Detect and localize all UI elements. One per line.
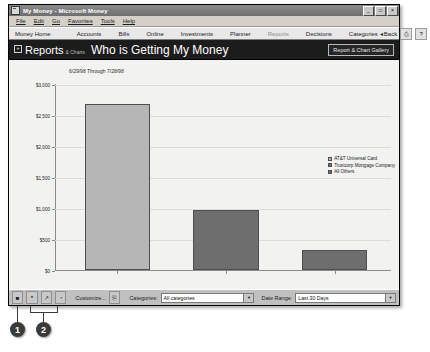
y-axis-tick-label: $0 (45, 269, 50, 274)
page-header-band: + Reports & Charts Who is Getting My Mon… (9, 40, 399, 60)
reports-section-sublabel: & Charts (66, 49, 85, 55)
nav-item-accounts[interactable]: Accounts (75, 31, 104, 37)
y-axis-tick (52, 178, 55, 179)
legend-item: All Others (328, 169, 395, 174)
legend-label: Trustcorp Mortgage Company (334, 163, 395, 168)
menu-item-tools[interactable]: Tools (97, 18, 119, 24)
money-document-icon (11, 6, 20, 15)
legend-label: AT&T Universal Card (334, 156, 377, 161)
menu-item-edit[interactable]: Edit (30, 18, 48, 24)
back-label: Back (384, 31, 397, 37)
menu-item-favorites[interactable]: Favorites (64, 18, 97, 24)
callout-leader-line (57, 306, 58, 313)
gridline (55, 85, 391, 86)
y-axis-tick-label: $3,000 (36, 83, 50, 88)
plot-area: $0$500$1,000$1,500$2,000$2,500$3,000 (55, 84, 391, 271)
y-axis-tick (52, 85, 55, 86)
nav-item-bills[interactable]: Bills (116, 31, 131, 37)
help-icon[interactable]: ? (415, 28, 427, 40)
chart-legend: AT&T Universal Card Trustcorp Mortgage C… (328, 156, 395, 176)
navigation-bar: Money Home Accounts Bills Online Investm… (9, 27, 399, 40)
bar-chart-icon[interactable]: ᵜ (26, 291, 37, 304)
y-axis-tick-label: $2,000 (36, 145, 50, 150)
export-icon[interactable]: ⎘ (109, 291, 120, 304)
title-bar: My Money - Microsoft Money _ □ × (9, 5, 399, 16)
daterange-value: Last 30 Days (296, 294, 385, 302)
report-chart-gallery-button[interactable]: Report & Chart Gallery (328, 44, 394, 56)
back-arrow-icon: ◂ (380, 30, 383, 37)
nav-item-decisions[interactable]: Decisions (304, 31, 334, 37)
daterange-label: Date Range: (261, 295, 292, 301)
x-axis-tick (226, 271, 227, 274)
chevron-down-icon[interactable]: ▼ (385, 294, 395, 302)
y-axis-tick-label: $500 (40, 238, 50, 243)
reports-section-label: Reports (25, 44, 64, 56)
application-window: My Money - Microsoft Money _ □ × File Ed… (8, 4, 400, 306)
caption-button-group: _ □ × (363, 6, 398, 16)
menu-item-file[interactable]: File (12, 18, 30, 24)
maximize-button[interactable]: □ (375, 6, 386, 16)
close-button[interactable]: × (387, 6, 398, 16)
legend-swatch-icon (328, 170, 332, 174)
y-axis-tick (52, 147, 55, 148)
chart-canvas: 6/29/98 Through 7/28/98 $0$500$1,000$1,5… (9, 60, 399, 289)
chevron-down-icon[interactable]: ▼ (243, 294, 253, 302)
nav-item-reports[interactable]: Reports (266, 31, 291, 37)
nav-item-investments[interactable]: Investments (179, 31, 215, 37)
nav-item-categories[interactable]: Categories (347, 31, 380, 37)
bar[interactable] (85, 104, 150, 270)
reports-section-link[interactable]: + Reports & Charts (9, 44, 87, 56)
chart-options-toolbar: ■ ᵜ ↗ ◔ Customize... ⎘ Categories: All c… (9, 289, 399, 305)
y-axis-tick (52, 240, 55, 241)
categories-dropdown[interactable]: All categories ▼ (161, 293, 255, 303)
callout-leader-line (30, 312, 58, 313)
x-axis-tick (335, 271, 336, 274)
bar[interactable] (193, 210, 258, 270)
legend-swatch-icon (328, 157, 332, 161)
minimize-button[interactable]: _ (363, 6, 374, 16)
menu-go-label: Go (52, 18, 60, 24)
menu-tools-label: Tools (101, 18, 115, 24)
chart-subtitle: 6/29/98 Through 7/28/98 (69, 68, 124, 74)
y-axis-tick-label: $1,000 (36, 207, 50, 212)
menu-file-label: File (16, 18, 26, 24)
expand-plus-icon[interactable]: + (14, 45, 22, 53)
y-axis-tick (52, 209, 55, 210)
bar[interactable] (302, 250, 367, 270)
nav-item-money-home[interactable]: Money Home (13, 31, 53, 37)
nav-item-online[interactable]: Online (144, 31, 165, 37)
page-title: Who is Getting My Money (91, 43, 228, 57)
categories-label: Categories: (129, 295, 157, 301)
report-view-icon[interactable]: ■ (12, 291, 23, 304)
legend-swatch-icon (328, 163, 332, 167)
callout-marker-2: 2 (36, 322, 51, 337)
x-axis (55, 270, 391, 271)
pie-chart-icon[interactable]: ◔ (55, 291, 66, 304)
daterange-dropdown[interactable]: Last 30 Days ▼ (295, 293, 396, 303)
x-axis-tick (117, 271, 118, 274)
legend-item: Trustcorp Mortgage Company (328, 163, 395, 168)
legend-item: AT&T Universal Card (328, 156, 395, 161)
y-axis-tick (52, 116, 55, 117)
callout-marker-1: 1 (10, 322, 25, 337)
menu-bar: File Edit Go Favorites Tools Help (9, 16, 399, 27)
callout-leader-line (43, 312, 44, 322)
menu-edit-label: Edit (34, 18, 44, 24)
menu-favorites-label: Favorites (68, 18, 93, 24)
menu-item-go[interactable]: Go (48, 18, 64, 24)
nav-item-planner[interactable]: Planner (228, 31, 253, 37)
menu-item-help[interactable]: Help (119, 18, 139, 24)
back-button[interactable]: ◂ Back (380, 30, 397, 37)
callout-leader-line (17, 306, 18, 322)
menu-help-label: Help (123, 18, 135, 24)
categories-value: All categories (162, 294, 244, 302)
y-axis-tick-label: $1,500 (36, 176, 50, 181)
print-icon[interactable]: ⎙ (400, 28, 412, 40)
y-axis-tick-label: $2,500 (36, 114, 50, 119)
window-title: My Money - Microsoft Money (23, 8, 363, 14)
legend-label: All Others (334, 169, 354, 174)
y-axis-tick (52, 271, 55, 272)
customize-button[interactable]: Customize... (75, 295, 106, 301)
line-chart-icon[interactable]: ↗ (41, 291, 52, 304)
